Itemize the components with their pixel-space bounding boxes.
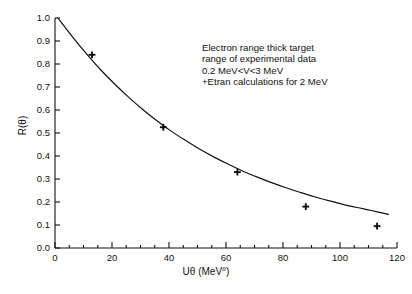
y-tick-label: 0.2 (24, 197, 50, 207)
x-tick-label: 20 (97, 253, 127, 263)
x-tick-label: 100 (325, 253, 355, 263)
y-tick-label: 0.8 (24, 59, 50, 69)
y-tick-label: 0.3 (24, 174, 50, 184)
y-axis-ticks (55, 18, 60, 248)
x-tick-label: 80 (268, 253, 298, 263)
x-axis-label: Uθ (MeV°) (0, 266, 412, 277)
y-tick-label: 0.4 (24, 151, 50, 161)
x-tick-label: 0 (40, 253, 70, 263)
y-tick-label: 0.5 (24, 128, 50, 138)
y-tick-label: 0.0 (24, 243, 50, 253)
y-tick-label: 0.7 (24, 82, 50, 92)
annotation-line-2: range of experimental data (202, 53, 328, 64)
x-tick-label: 120 (382, 253, 412, 263)
x-tick-label: 60 (211, 253, 241, 263)
annotation-line-1: Electron range thick target (202, 42, 328, 53)
x-tick-label: 40 (154, 253, 184, 263)
y-tick-label: 0.6 (24, 105, 50, 115)
y-tick-label: 0.9 (24, 36, 50, 46)
annotation-line-3: 0.2 MeV<V<3 MeV (202, 65, 328, 76)
y-tick-label: 1.0 (24, 13, 50, 23)
chart-figure: 0.00.10.20.30.40.50.60.70.80.91.0 020406… (0, 0, 412, 294)
annotation-line-4: +Etran calculations for 2 MeV (202, 76, 328, 87)
x-axis-ticks (55, 242, 397, 248)
y-axis-label: R(θ) (17, 96, 28, 156)
y-tick-label: 0.1 (24, 220, 50, 230)
annotation-text-block: Electron range thick target range of exp… (202, 42, 328, 88)
